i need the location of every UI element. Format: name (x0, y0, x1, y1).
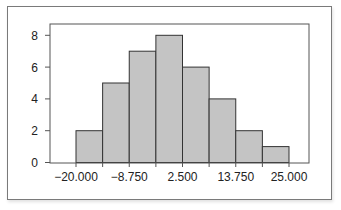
y-axis: 02468 (31, 29, 50, 170)
histogram-bar (262, 147, 289, 163)
histogram-bar (129, 51, 156, 162)
x-tick-label: −8.750 (111, 170, 148, 184)
y-tick-label: 0 (31, 156, 38, 170)
histogram-bar (236, 131, 263, 163)
y-tick-label: 4 (31, 92, 38, 106)
y-tick-label: 8 (31, 29, 38, 43)
y-tick-label: 2 (31, 124, 38, 138)
histogram-bar (183, 67, 210, 162)
x-tick-label: 25.000 (271, 170, 308, 184)
histogram-bar (209, 99, 236, 163)
x-tick-label: −20.000 (54, 170, 98, 184)
y-tick-label: 6 (31, 61, 38, 75)
x-tick-label: 2.500 (167, 170, 197, 184)
histogram-bars (76, 35, 289, 162)
histogram-bar (156, 35, 183, 162)
x-axis: −20.000−8.7502.50013.75025.000 (54, 163, 308, 184)
histogram-bar (76, 131, 103, 163)
histogram-bar (103, 83, 130, 163)
x-tick-label: 13.750 (217, 170, 254, 184)
histogram-chart: 02468 −20.000−8.7502.50013.75025.000 (0, 0, 341, 210)
